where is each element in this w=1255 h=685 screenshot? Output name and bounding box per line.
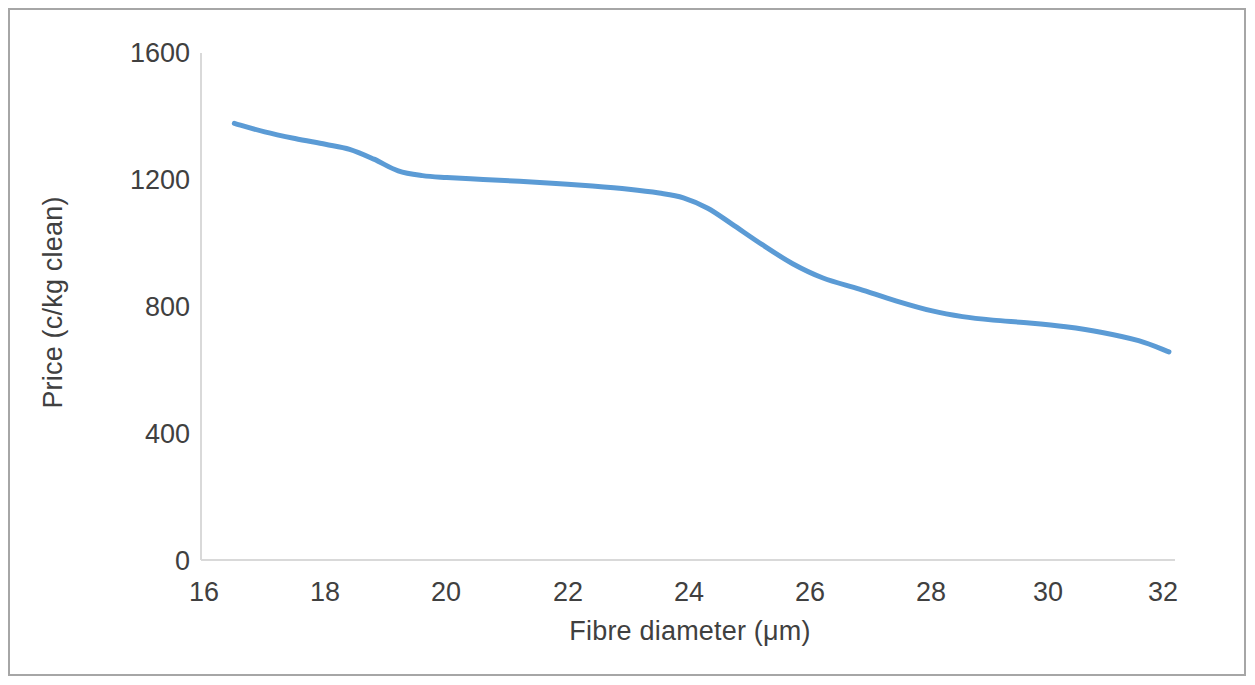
x-tick-26: 26 (775, 577, 845, 608)
y-tick-400: 400 (100, 419, 190, 450)
y-tick-0: 0 (100, 546, 190, 577)
x-tick-28: 28 (896, 577, 966, 608)
x-axis-title: Fibre diameter (μm) (440, 616, 940, 647)
y-tick-1600: 1600 (100, 38, 190, 69)
x-tick-20: 20 (411, 577, 481, 608)
chart-screenshot: 1600 1200 800 400 0 16 18 20 22 24 26 28… (0, 0, 1255, 685)
y-axis-title: Price (c/kg clean) (38, 188, 69, 418)
series-group (234, 123, 1169, 351)
data-line-price (234, 123, 1169, 351)
line-chart: 1600 1200 800 400 0 16 18 20 22 24 26 28… (0, 0, 1255, 685)
x-tick-22: 22 (533, 577, 603, 608)
y-tick-1200: 1200 (100, 165, 190, 196)
x-tick-32: 32 (1128, 577, 1198, 608)
x-tick-16: 16 (169, 577, 239, 608)
axes-group (201, 53, 1175, 560)
y-tick-800: 800 (100, 292, 190, 323)
x-tick-18: 18 (290, 577, 360, 608)
x-tick-30: 30 (1013, 577, 1083, 608)
x-tick-24: 24 (654, 577, 724, 608)
